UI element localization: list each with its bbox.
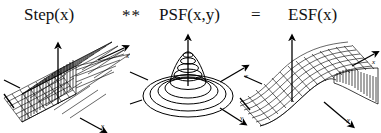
- plot-esf: x y: [240, 24, 381, 133]
- label-step: Step(x): [24, 6, 74, 23]
- step-y-axis-label: y: [100, 122, 105, 130]
- esf-y-axis-label: y: [346, 116, 351, 124]
- plot-row: x y: [0, 24, 381, 133]
- label-psf: PSF(x,y): [159, 6, 220, 23]
- operator-equals: =: [251, 6, 261, 23]
- plot-psf: x y: [128, 24, 252, 133]
- esf-x-axis-label: x: [371, 58, 376, 66]
- label-esf: ESF(x): [288, 6, 337, 23]
- plot-step: x y: [2, 24, 138, 133]
- operator-convolution: **: [122, 7, 141, 24]
